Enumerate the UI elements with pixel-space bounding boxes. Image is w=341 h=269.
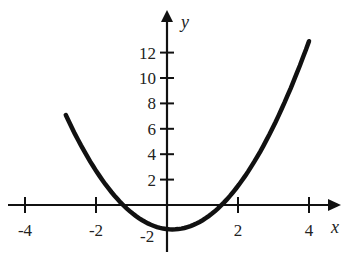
x-tick-label: -4 — [18, 221, 33, 240]
x-tick-label: 4 — [305, 221, 314, 240]
parabola-curve — [66, 41, 309, 229]
x-ticks: -4-224 — [18, 197, 314, 240]
y-axis-arrow-icon — [161, 10, 173, 22]
y-tick-label: 10 — [139, 69, 156, 88]
y-tick-label: 12 — [139, 44, 156, 63]
origin-neg2-label: -2 — [140, 227, 154, 246]
y-tick-label: 4 — [148, 145, 157, 164]
x-tick-label: 2 — [234, 221, 243, 240]
axes — [8, 10, 341, 252]
y-ticks: 24681012 — [139, 44, 174, 190]
y-tick-label: 8 — [148, 94, 157, 113]
y-tick-label: 6 — [148, 120, 157, 139]
y-tick-label: 2 — [148, 171, 157, 190]
chart: -4-224 24681012 x y -2 — [0, 0, 341, 269]
x-axis-label: x — [330, 217, 339, 237]
x-tick-label: -2 — [89, 221, 103, 240]
y-axis-label: y — [179, 12, 189, 32]
x-axis-arrow-icon — [328, 199, 341, 211]
